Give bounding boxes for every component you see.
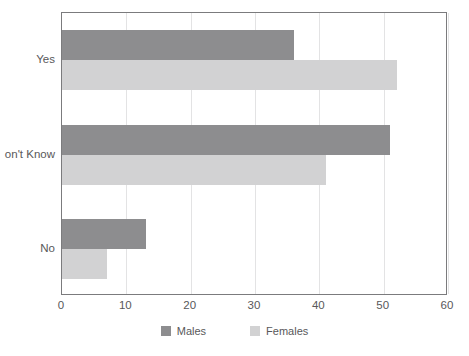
gridline-x-60 xyxy=(448,13,449,294)
x-axis-tick-10: 10 xyxy=(119,299,132,311)
plot-area xyxy=(61,12,447,295)
bar-males-don-t-know[interactable] xyxy=(62,125,390,155)
x-axis-tick-labels: 0102030405060 xyxy=(0,299,469,317)
bar-females-no[interactable] xyxy=(62,249,107,279)
x-axis-tick-0: 0 xyxy=(58,299,64,311)
legend-swatch-females-icon xyxy=(250,326,260,336)
bar-males-no[interactable] xyxy=(62,219,146,249)
bar-males-yes[interactable] xyxy=(62,30,294,60)
legend-item-males[interactable]: Males xyxy=(161,325,206,337)
legend-label-males: Males xyxy=(177,325,206,337)
bar-females-don-t-know[interactable] xyxy=(62,155,326,185)
chart-legend: Males Females xyxy=(0,321,469,341)
x-axis-tick-20: 20 xyxy=(183,299,196,311)
y-axis-category-labels: Yeson't KnowNo xyxy=(0,12,61,295)
x-axis-tick-50: 50 xyxy=(376,299,389,311)
legend-swatch-males-icon xyxy=(161,326,171,336)
x-axis-tick-30: 30 xyxy=(248,299,261,311)
bars-layer xyxy=(62,13,446,294)
y-axis-label-yes: Yes xyxy=(36,53,55,66)
y-axis-label-no: No xyxy=(40,241,55,254)
x-axis-tick-60: 60 xyxy=(441,299,454,311)
bar-chart-figure: Yeson't KnowNo 0102030405060 Males Femal… xyxy=(0,0,469,356)
legend-label-females: Females xyxy=(266,325,308,337)
bar-females-yes[interactable] xyxy=(62,60,397,90)
y-axis-label-don-t-know: on't Know xyxy=(5,147,55,160)
legend-item-females[interactable]: Females xyxy=(250,325,308,337)
x-axis-tick-40: 40 xyxy=(312,299,325,311)
